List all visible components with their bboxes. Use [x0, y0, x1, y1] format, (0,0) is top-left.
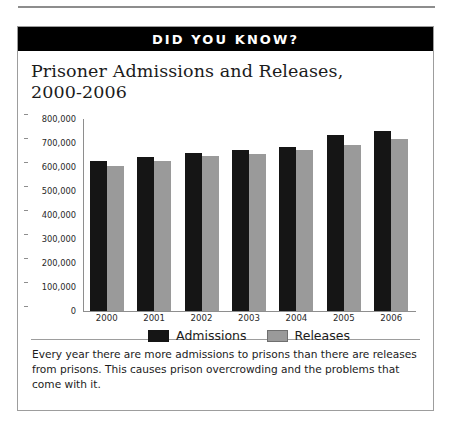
y-axis-tick-mark [24, 162, 28, 163]
bar-group [90, 119, 124, 311]
did-you-know-card: DID YOU KNOW? Prisoner Admissions and Re… [17, 26, 434, 411]
bar-admissions-2006 [374, 131, 391, 311]
bar-group [374, 119, 408, 311]
x-axis-label-2005: 2005 [324, 313, 364, 323]
y-axis-tick-label: 400,000 [28, 210, 83, 220]
page-title-line-1: Prisoner Admissions and Releases, [31, 61, 420, 82]
y-axis-tick-label: 200,000 [28, 258, 83, 268]
y-axis-tick-mark [24, 186, 28, 187]
card-body: Prisoner Admissions and Releases, 2000-2… [18, 61, 433, 393]
bar-groups [83, 119, 415, 311]
legend-label-releases: Releases [295, 328, 350, 343]
bar-releases-2005 [344, 145, 361, 311]
bar-group [279, 119, 313, 311]
bar-admissions-2005 [327, 135, 344, 311]
bar-releases-2001 [154, 161, 171, 311]
bar-admissions-2000 [90, 161, 107, 311]
y-axis-tick-mark [24, 258, 28, 259]
top-rule-divider [18, 6, 435, 8]
x-axis-label-2000: 2000 [87, 313, 127, 323]
legend-swatch-releases [267, 330, 288, 342]
page-root: DID YOU KNOW? Prisoner Admissions and Re… [0, 0, 452, 423]
bar-releases-2006 [391, 139, 408, 311]
bar-group [137, 119, 171, 311]
bar-chart: 800,000700,000600,000500,000400,000300,0… [31, 107, 421, 333]
x-axis-label-2001: 2001 [134, 313, 174, 323]
bar-admissions-2003 [232, 150, 249, 311]
y-axis-tick-label: 0 [28, 306, 83, 316]
bar-releases-2004 [296, 150, 313, 311]
x-axis-label-2003: 2003 [229, 313, 269, 323]
chart-legend: AdmissionsReleases [83, 328, 415, 343]
legend-item-releases: Releases [267, 328, 350, 343]
legend-label-admissions: Admissions [176, 328, 247, 343]
banner-label: DID YOU KNOW? [152, 32, 299, 47]
legend-swatch-admissions [148, 330, 169, 342]
y-axis-tick-mark [24, 114, 28, 115]
page-title: Prisoner Admissions and Releases, 2000-2… [31, 61, 420, 103]
y-axis-tick-mark [24, 282, 28, 283]
bar-admissions-2004 [279, 147, 296, 311]
bar-group [232, 119, 266, 311]
bar-releases-2000 [107, 166, 124, 311]
y-axis-tick-label: 700,000 [28, 138, 83, 148]
x-axis-label-2002: 2002 [182, 313, 222, 323]
bar-group [185, 119, 219, 311]
y-axis-tick-mark [24, 210, 28, 211]
x-axis-labels: 2000200120022003200420052006 [83, 313, 415, 323]
y-axis-tick-mark [24, 138, 28, 139]
plot-area: 800,000700,000600,000500,000400,000300,0… [83, 119, 415, 311]
bar-releases-2002 [202, 156, 219, 311]
legend-item-admissions: Admissions [148, 328, 247, 343]
y-axis-tick-label: 300,000 [28, 234, 83, 244]
bar-admissions-2001 [137, 157, 154, 311]
x-axis-label-2006: 2006 [371, 313, 411, 323]
y-axis-tick-label: 100,000 [28, 282, 83, 292]
y-axis-tick-label: 500,000 [28, 186, 83, 196]
page-title-line-2: 2000-2006 [31, 82, 420, 103]
bar-group [327, 119, 361, 311]
bar-admissions-2002 [185, 153, 202, 311]
bar-releases-2003 [249, 154, 266, 311]
y-axis-tick-label: 600,000 [28, 162, 83, 172]
y-axis-tick-mark [24, 234, 28, 235]
did-you-know-banner: DID YOU KNOW? [18, 27, 433, 51]
x-axis-label-2004: 2004 [276, 313, 316, 323]
y-axis-tick-label: 800,000 [28, 114, 83, 124]
x-axis-line [83, 311, 416, 312]
caption-text: Every year there are more admissions to … [31, 340, 420, 393]
y-axis-tick-mark [24, 306, 28, 307]
